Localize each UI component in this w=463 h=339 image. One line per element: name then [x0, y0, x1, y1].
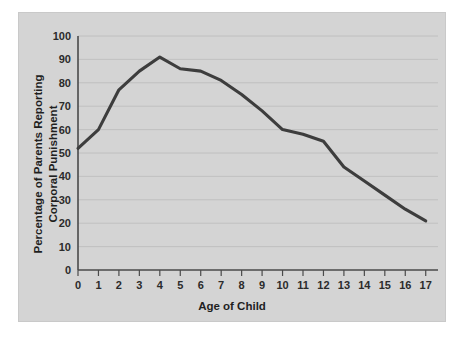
- x-tick-label: 17: [420, 279, 432, 291]
- y-axis-title-line-1: Percentage of Parents Reporting: [32, 75, 44, 254]
- figure: 0102030405060708090100 01234567891011121…: [0, 0, 463, 339]
- x-tick-label: 8: [239, 279, 245, 291]
- y-tick-label: 30: [59, 194, 71, 206]
- x-tick-label: 10: [276, 279, 288, 291]
- y-tick-label: 40: [59, 170, 71, 182]
- y-tick-label: 60: [59, 124, 71, 136]
- y-axis-title: Percentage of Parents Reporting Corporal…: [32, 75, 59, 254]
- x-tick-label: 6: [198, 279, 204, 291]
- chart-panel: 0102030405060708090100 01234567891011121…: [18, 12, 446, 322]
- x-tick-label: 2: [116, 279, 122, 291]
- x-tick-label: 7: [218, 279, 224, 291]
- y-tick-label: 20: [59, 217, 71, 229]
- x-tick-label: 16: [399, 279, 411, 291]
- y-tick-label: 90: [59, 53, 71, 65]
- y-axis-title-line-2: Corporal Punishment: [47, 105, 59, 222]
- x-tick-label: 15: [379, 279, 391, 291]
- x-tick-label: 13: [338, 279, 350, 291]
- x-tick-marks-group: [78, 270, 426, 276]
- x-tick-label: 11: [297, 279, 309, 291]
- y-tick-label: 0: [65, 264, 71, 276]
- x-tick-label: 3: [136, 279, 142, 291]
- gridlines-group: [78, 36, 438, 247]
- x-tick-label: 1: [95, 279, 101, 291]
- y-tick-label: 10: [59, 241, 71, 253]
- data-series-line: [78, 57, 426, 221]
- x-tick-label: 14: [358, 279, 371, 291]
- x-tick-labels-group: 01234567891011121314151617: [75, 279, 432, 291]
- x-tick-label: 12: [317, 279, 329, 291]
- y-tick-label: 80: [59, 77, 71, 89]
- x-tick-label: 0: [75, 279, 81, 291]
- x-axis-title: Age of Child: [198, 300, 266, 312]
- x-tick-label: 4: [157, 279, 164, 291]
- y-tick-label: 100: [53, 30, 71, 42]
- y-tick-label: 70: [59, 100, 71, 112]
- line-chart: 0102030405060708090100 01234567891011121…: [18, 12, 446, 322]
- x-tick-label: 9: [259, 279, 265, 291]
- x-tick-label: 5: [177, 279, 183, 291]
- y-tick-label: 50: [59, 147, 71, 159]
